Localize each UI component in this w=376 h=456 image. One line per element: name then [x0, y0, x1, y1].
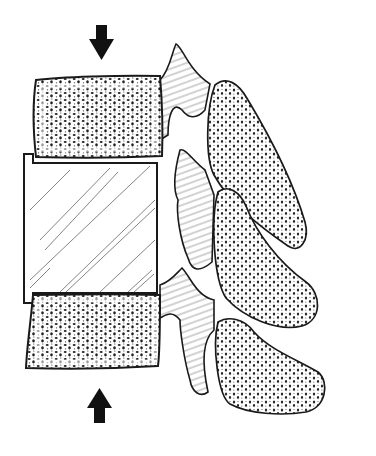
spinous-process-3	[216, 319, 325, 414]
arrow-down-icon	[89, 25, 114, 60]
arrow-up-icon	[87, 388, 112, 423]
interbody-spacer	[24, 154, 157, 303]
upper-vertebral-body	[34, 76, 163, 158]
spine-illustration	[0, 0, 376, 456]
lower-vertebral-body	[26, 294, 160, 368]
illustration	[0, 0, 376, 456]
posterior-elements	[160, 44, 214, 394]
